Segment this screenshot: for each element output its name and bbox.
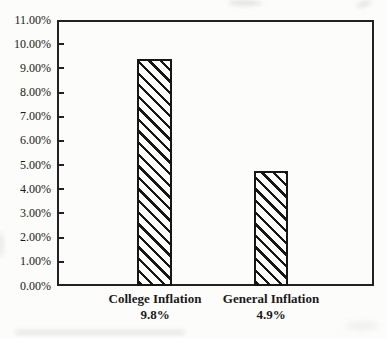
y-axis-tick-label: 11.00% bbox=[0, 13, 51, 28]
x-axis-label-college: College Inflation 9.8% bbox=[94, 291, 216, 322]
scan-smudge bbox=[345, 322, 379, 330]
y-axis-tick-label: 3.00% bbox=[0, 206, 51, 221]
y-axis-tick-label: 1.00% bbox=[0, 254, 51, 269]
y-axis-tick-mark bbox=[59, 116, 64, 118]
bar-college-inflation bbox=[137, 59, 172, 286]
y-axis-tick-mark bbox=[59, 43, 64, 45]
y-axis-tick-label: 9.00% bbox=[0, 61, 51, 76]
plot-area bbox=[57, 20, 374, 286]
category-label: General Inflation bbox=[210, 291, 332, 306]
category-label: College Inflation bbox=[94, 291, 216, 306]
y-axis-tick-label: 10.00% bbox=[0, 37, 51, 52]
y-axis-tick-label: 2.00% bbox=[0, 230, 51, 245]
category-value-label: 4.9% bbox=[210, 307, 332, 322]
y-axis-tick-label: 8.00% bbox=[0, 85, 51, 100]
y-axis-tick-label: 4.00% bbox=[0, 182, 51, 197]
y-axis-tick-label: 0.00% bbox=[0, 279, 51, 294]
y-axis-tick-mark bbox=[59, 67, 64, 69]
bar-chart-figure: College Inflation 9.8% General Inflation… bbox=[0, 0, 387, 338]
scan-smudge bbox=[228, 0, 262, 6]
y-axis-tick-mark bbox=[59, 92, 64, 94]
y-axis-tick-label: 6.00% bbox=[0, 133, 51, 148]
y-axis-tick-label: 5.00% bbox=[0, 158, 51, 173]
category-value-label: 9.8% bbox=[94, 307, 216, 322]
y-axis-tick-mark bbox=[59, 237, 64, 239]
y-axis-tick-mark bbox=[59, 261, 64, 263]
scan-smudge bbox=[15, 330, 185, 335]
y-axis-tick-mark bbox=[59, 140, 64, 142]
scan-smudge bbox=[355, 0, 372, 9]
y-axis-tick-mark bbox=[59, 164, 64, 166]
y-axis-tick-mark bbox=[59, 188, 64, 190]
bar-general-inflation bbox=[254, 171, 288, 286]
y-axis-tick-label: 7.00% bbox=[0, 109, 51, 124]
y-axis-tick-mark bbox=[59, 212, 64, 214]
x-axis-label-general: General Inflation 4.9% bbox=[210, 291, 332, 322]
